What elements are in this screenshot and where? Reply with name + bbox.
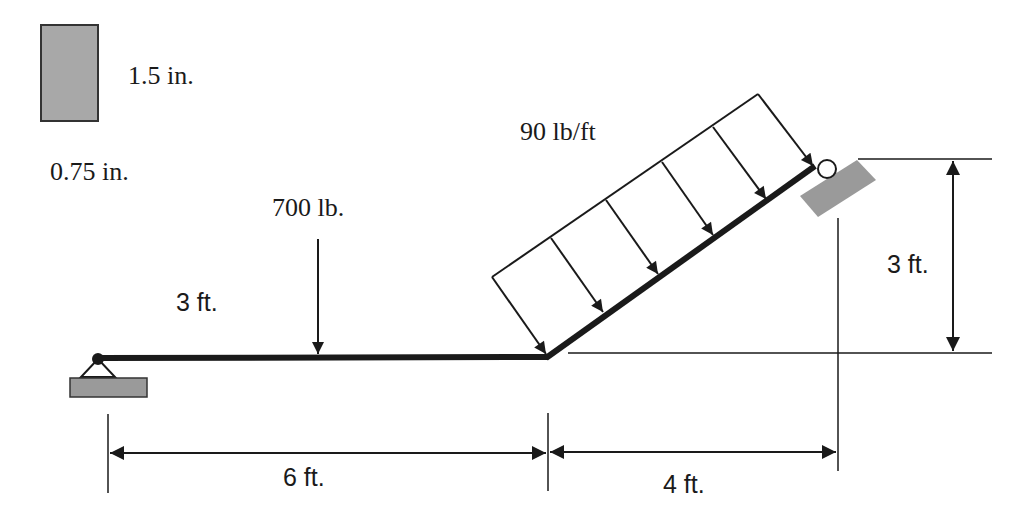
point-load-label: 700 lb. (272, 193, 344, 222)
beam-inclined-segment (546, 166, 815, 358)
cross-section: 1.5 in. 0.75 in. (41, 25, 194, 186)
distributed-load: 90 lb/ft (492, 94, 813, 354)
distributed-load-arrow-icon (551, 238, 603, 312)
beam (98, 166, 815, 358)
roller-icon (818, 160, 836, 178)
distributed-load-label: 90 lb/ft (520, 117, 597, 146)
beam-horizontal-segment (98, 357, 548, 358)
distributed-load-arrow-icon (492, 277, 546, 354)
distributed-load-arrow-icon (662, 162, 713, 235)
distributed-load-arrow-icon (758, 94, 813, 166)
vertical-dimension-label: 3 ft. (887, 250, 929, 278)
cross-section-width-label: 0.75 in. (50, 157, 129, 186)
point-load-offset-label: 3 ft. (176, 288, 218, 316)
cross-section-rect (41, 25, 98, 121)
distributed-load-arrow-icon (713, 127, 766, 199)
ground-block-left (70, 378, 147, 397)
horizontal-dimension-label-1: 6 ft. (283, 463, 325, 491)
cross-section-height-label: 1.5 in. (128, 61, 194, 90)
distributed-load-arrow-icon (606, 200, 658, 274)
horizontal-dimension-label-2: 4 ft. (663, 470, 705, 498)
beam-diagram: 1.5 in. 0.75 in. 700 lb. 3 ft. 90 lb/ft (0, 0, 1030, 526)
point-load: 700 lb. 3 ft. (176, 193, 344, 354)
